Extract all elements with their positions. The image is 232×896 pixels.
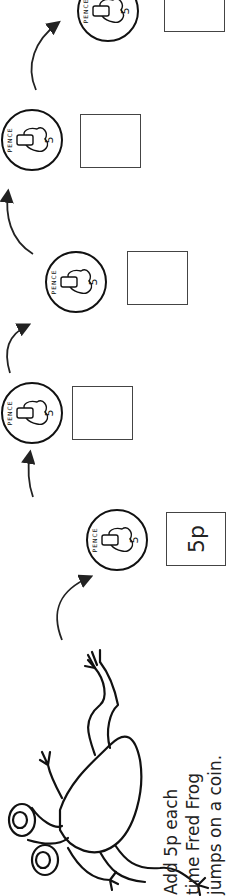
svg-text:5: 5 xyxy=(43,410,56,417)
instruction-line-1: Add 5p each xyxy=(160,649,182,895)
svg-text:PENCE: PENCE xyxy=(6,401,13,426)
svg-text:5: 5 xyxy=(119,8,132,15)
five-pence-coin-5: 5 PENCE xyxy=(75,0,141,44)
instruction-line-2: time Fred Frog xyxy=(182,649,204,895)
answer-box-4[interactable] xyxy=(80,114,141,168)
five-pence-coin-2: 5 PENCE xyxy=(0,380,65,446)
answer-box-1[interactable]: 5p xyxy=(166,512,226,566)
svg-text:5: 5 xyxy=(43,137,56,144)
five-pence-coin-3: 5 PENCE xyxy=(43,249,109,315)
svg-text:PENCE: PENCE xyxy=(91,528,98,553)
svg-text:PENCE: PENCE xyxy=(6,128,13,153)
answer-box-5[interactable] xyxy=(164,0,225,32)
five-pence-coin-4: 5 PENCE xyxy=(0,107,65,173)
instruction-text: Add 5p each time Fred Frog jumps on a co… xyxy=(160,649,226,895)
jump-arrow-4 xyxy=(7,192,33,254)
svg-text:PENCE: PENCE xyxy=(50,270,57,295)
svg-text:PENCE: PENCE xyxy=(82,0,89,23)
jump-arrow-5 xyxy=(32,23,58,90)
five-pence-coin-1: 5 PENCE xyxy=(84,507,150,573)
jump-arrow-3 xyxy=(7,325,28,373)
instruction-line-3: jumps on a coin. xyxy=(204,649,226,895)
answer-box-1-value: 5p xyxy=(184,525,209,553)
jump-arrow-2 xyxy=(28,453,33,497)
answer-box-2[interactable] xyxy=(72,386,133,440)
jump-arrow-1 xyxy=(57,577,90,640)
svg-text:5: 5 xyxy=(87,279,100,286)
answer-box-3[interactable] xyxy=(127,251,188,305)
svg-text:5: 5 xyxy=(128,537,141,544)
